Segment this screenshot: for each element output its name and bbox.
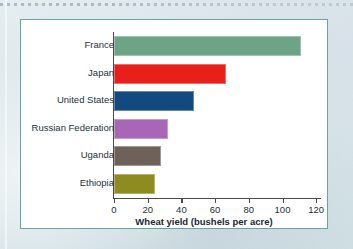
bar-row: Ethiopia: [21, 170, 329, 196]
bar-united-states[interactable]: [114, 91, 194, 111]
bar-ethiopia[interactable]: [114, 174, 155, 194]
bar-row: Russian Federation: [21, 115, 329, 141]
x-tick-label: 80: [234, 204, 264, 215]
x-axis-title: Wheat yield (bushels per acre): [79, 216, 329, 227]
bar-row: Japan: [21, 60, 329, 86]
x-tick-label: 60: [200, 204, 230, 215]
bar-uganda[interactable]: [114, 146, 161, 166]
bar-row: France: [21, 32, 329, 58]
x-tick-mark: [215, 198, 216, 203]
bar-category-label: Russian Federation: [0, 115, 114, 141]
x-axis-line: [113, 198, 321, 199]
x-tick-label: 40: [166, 204, 196, 215]
bar-category-label: France: [0, 32, 114, 58]
x-tick-label: 20: [133, 204, 163, 215]
x-tick-mark: [114, 198, 115, 203]
bar-category-label: United States: [0, 87, 114, 113]
bar-france[interactable]: [114, 36, 301, 56]
bar-japan[interactable]: [114, 64, 226, 84]
x-tick-mark: [316, 198, 317, 203]
bar-category-label: Japan: [0, 60, 114, 86]
x-tick-mark: [249, 198, 250, 203]
bar-row: United States: [21, 87, 329, 113]
x-tick-mark: [283, 198, 284, 203]
x-tick-mark: [148, 198, 149, 203]
page-background: FranceJapanUnited StatesRussian Federati…: [0, 0, 353, 249]
bar-russian-federation[interactable]: [114, 119, 168, 139]
dotted-rule-decoration: [0, 3, 353, 6]
bar-chart-plot: FranceJapanUnited StatesRussian Federati…: [21, 20, 329, 230]
bar-category-label: Uganda: [0, 142, 114, 168]
bar-row: Uganda: [21, 142, 329, 168]
x-tick-label: 100: [268, 204, 298, 215]
bar-category-label: Ethiopia: [0, 170, 114, 196]
x-tick-label: 120: [301, 204, 331, 215]
x-tick-mark: [181, 198, 182, 203]
chart-frame: FranceJapanUnited StatesRussian Federati…: [20, 19, 328, 229]
x-tick-label: 0: [99, 204, 129, 215]
